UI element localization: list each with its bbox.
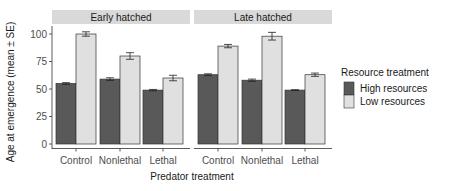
- x-tick-label: Lethal: [149, 155, 176, 166]
- facet-strip-label: Early hatched: [90, 12, 151, 23]
- y-tick-label: 50: [36, 84, 48, 95]
- y-tick-label: 75: [36, 56, 48, 67]
- legend-key-low: [344, 95, 354, 108]
- bar-low-nonlethal: [120, 56, 140, 144]
- bar-high-lethal: [143, 90, 163, 144]
- y-tick-label: 100: [30, 29, 47, 40]
- x-tick-label: Control: [60, 155, 92, 166]
- facet-panel-late: Late hatchedControlNonlethalLethal: [194, 10, 332, 166]
- legend-label-low: Low resources: [360, 96, 425, 107]
- y-axis: 0255075100: [30, 26, 52, 150]
- bar-high-control: [198, 75, 218, 144]
- y-tick-label: 0: [41, 139, 47, 150]
- facet-strip-label: Late hatched: [234, 12, 292, 23]
- bar-chart: Age at emergence (mean ± SE) 0255075100 …: [0, 0, 449, 191]
- legend-label-high: High resources: [360, 83, 427, 94]
- x-tick-label: Control: [202, 155, 234, 166]
- bar-low-nonlethal: [262, 36, 282, 144]
- x-tick-label: Nonlethal: [99, 155, 141, 166]
- y-tick-label: 25: [36, 111, 48, 122]
- facet-panel-early: Early hatchedControlNonlethalLethal: [52, 10, 190, 166]
- legend-title: Resource treatment: [341, 67, 429, 78]
- bar-low-lethal: [163, 78, 183, 144]
- y-axis-title: Age at emergence (mean ± SE): [5, 22, 16, 163]
- bar-low-control: [76, 34, 96, 144]
- facet-panels: Early hatchedControlNonlethalLethalLate …: [52, 10, 332, 166]
- bar-high-nonlethal: [100, 79, 120, 144]
- legend: Resource treatment High resources Low re…: [341, 67, 429, 108]
- bar-low-lethal: [305, 75, 325, 144]
- bar-high-nonlethal: [242, 80, 262, 144]
- x-tick-label: Nonlethal: [241, 155, 283, 166]
- legend-key-high: [344, 82, 354, 95]
- x-axis-title: Predator treatment: [150, 171, 234, 182]
- bar-high-control: [56, 84, 76, 145]
- bar-low-control: [218, 46, 238, 144]
- bar-high-lethal: [285, 90, 305, 144]
- x-tick-label: Lethal: [291, 155, 318, 166]
